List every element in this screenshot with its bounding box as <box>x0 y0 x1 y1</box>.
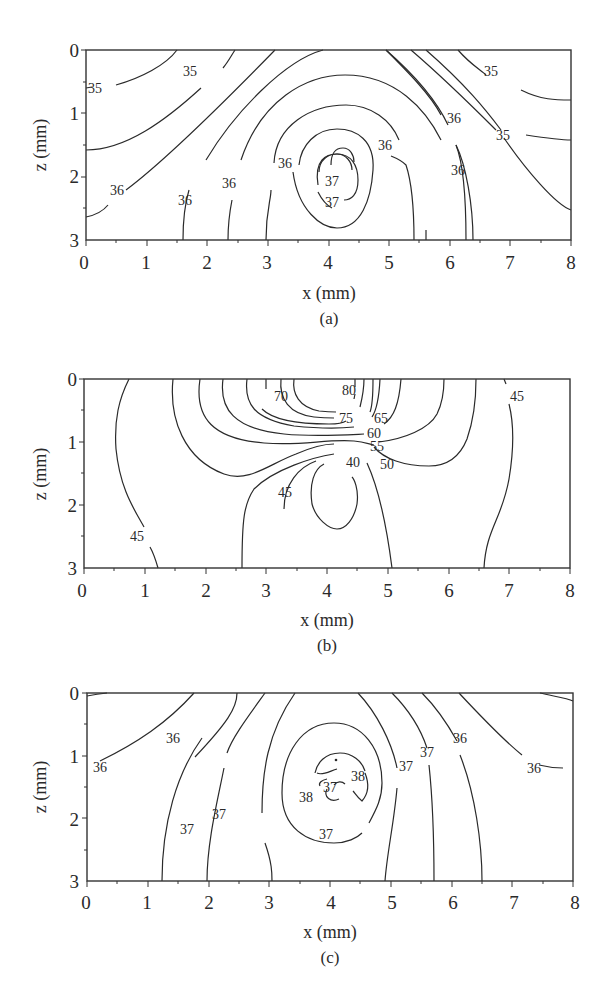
svg-text:40: 40 <box>346 455 360 470</box>
peak-marker <box>335 759 338 762</box>
svg-text:3: 3 <box>68 558 78 579</box>
svg-text:1: 1 <box>68 432 78 453</box>
svg-text:4: 4 <box>326 892 336 913</box>
svg-text:4: 4 <box>323 252 333 273</box>
svg-text:5: 5 <box>384 252 394 273</box>
contour-panel-b: 80 70 75 65 60 55 50 40 45 45 45 <box>0 330 616 670</box>
svg-text:7: 7 <box>509 892 519 913</box>
svg-text:6: 6 <box>445 252 455 273</box>
svg-text:75: 75 <box>339 411 353 426</box>
x-tick-labels: 0 1 2 3 4 5 6 7 8 <box>81 892 580 913</box>
svg-text:37: 37 <box>323 780 337 795</box>
svg-text:0: 0 <box>77 580 87 601</box>
x-axis-label: x (mm) <box>300 610 354 631</box>
svg-text:65: 65 <box>374 411 388 426</box>
panel-caption: (c) <box>321 948 340 967</box>
svg-text:37: 37 <box>319 827 333 842</box>
x-ticks <box>84 568 570 574</box>
svg-text:37: 37 <box>325 195 339 210</box>
svg-text:36: 36 <box>527 761 541 776</box>
x-tick-labels: 0 1 2 3 4 5 6 7 8 <box>77 580 575 601</box>
svg-text:2: 2 <box>201 580 211 601</box>
y-ticks <box>81 50 86 240</box>
svg-text:35: 35 <box>496 128 510 143</box>
svg-text:45: 45 <box>278 485 292 500</box>
svg-text:0: 0 <box>68 369 78 390</box>
svg-text:0: 0 <box>81 892 91 913</box>
svg-text:2: 2 <box>68 495 78 516</box>
x-tick-labels: 0 1 2 3 4 5 6 7 8 <box>79 252 576 273</box>
contour-plot-c: 36 36 36 36 37 37 37 37 37 37 38 38 <box>0 670 616 1007</box>
svg-text:37: 37 <box>420 745 434 760</box>
svg-text:6: 6 <box>448 892 458 913</box>
contour-lines <box>116 379 513 568</box>
svg-text:7: 7 <box>505 252 515 273</box>
contour-panel-a: 35 35 35 35 36 36 36 36 36 36 36 37 37 <box>0 0 616 330</box>
svg-text:0: 0 <box>70 40 80 61</box>
svg-text:55: 55 <box>370 439 384 454</box>
svg-text:5: 5 <box>387 892 397 913</box>
svg-text:36: 36 <box>93 760 107 775</box>
x-axis-label: x (mm) <box>303 922 357 943</box>
y-tick-labels: 0 1 2 3 <box>70 40 80 251</box>
contour-plot-a: 35 35 35 35 36 36 36 36 36 36 36 37 37 <box>0 0 616 330</box>
svg-text:1: 1 <box>142 892 152 913</box>
svg-text:1: 1 <box>140 580 150 601</box>
svg-text:8: 8 <box>570 892 580 913</box>
svg-text:36: 36 <box>110 183 124 198</box>
svg-text:80: 80 <box>342 383 356 398</box>
y-axis-label: z (mm) <box>30 761 51 813</box>
panel-caption: (a) <box>320 309 339 328</box>
contour-lines <box>86 50 571 240</box>
y-axis-label: z (mm) <box>30 119 51 171</box>
svg-text:3: 3 <box>70 230 80 251</box>
svg-text:8: 8 <box>566 252 576 273</box>
svg-text:35: 35 <box>484 64 498 79</box>
svg-text:2: 2 <box>70 166 80 187</box>
contour-panel-c: 36 36 36 36 37 37 37 37 37 37 38 38 <box>0 670 616 1007</box>
svg-text:45: 45 <box>510 389 524 404</box>
svg-text:37: 37 <box>180 822 194 837</box>
y-axis-label: z (mm) <box>30 448 51 500</box>
svg-text:45: 45 <box>130 529 144 544</box>
svg-text:1: 1 <box>141 252 151 273</box>
svg-text:37: 37 <box>325 174 339 189</box>
svg-text:70: 70 <box>274 389 288 404</box>
svg-text:36: 36 <box>378 138 392 153</box>
y-tick-labels: 0 1 2 3 <box>68 369 78 579</box>
svg-text:4: 4 <box>322 580 332 601</box>
x-ticks <box>87 881 573 887</box>
svg-text:36: 36 <box>451 163 465 178</box>
contour-labels: 80 70 75 65 60 55 50 40 45 45 45 <box>130 383 524 544</box>
svg-text:1: 1 <box>70 746 80 767</box>
svg-text:2: 2 <box>202 252 212 273</box>
svg-text:36: 36 <box>447 111 461 126</box>
svg-text:36: 36 <box>178 193 192 208</box>
svg-text:37: 37 <box>212 807 226 822</box>
plot-frame <box>84 379 570 568</box>
x-ticks <box>86 240 571 246</box>
svg-text:2: 2 <box>204 892 214 913</box>
svg-text:3: 3 <box>70 871 80 892</box>
svg-text:0: 0 <box>79 252 89 273</box>
svg-text:8: 8 <box>565 580 575 601</box>
svg-text:35: 35 <box>183 64 197 79</box>
svg-text:36: 36 <box>222 176 236 191</box>
svg-text:50: 50 <box>380 457 394 472</box>
svg-text:3: 3 <box>261 580 271 601</box>
svg-text:3: 3 <box>264 892 274 913</box>
svg-text:0: 0 <box>70 683 80 704</box>
y-ticks <box>82 693 87 850</box>
svg-text:35: 35 <box>88 81 102 96</box>
svg-text:1: 1 <box>70 103 80 124</box>
contour-plot-b: 80 70 75 65 60 55 50 40 45 45 45 <box>0 330 616 670</box>
panel-caption: (b) <box>317 636 337 655</box>
y-ticks <box>79 379 84 536</box>
svg-text:6: 6 <box>444 580 454 601</box>
svg-text:37: 37 <box>399 759 413 774</box>
contour-labels: 36 36 36 36 37 37 37 37 37 37 38 38 <box>93 731 541 842</box>
y-tick-labels: 0 1 2 3 <box>70 683 80 892</box>
svg-text:36: 36 <box>166 731 180 746</box>
svg-text:7: 7 <box>504 580 514 601</box>
svg-text:38: 38 <box>299 790 313 805</box>
